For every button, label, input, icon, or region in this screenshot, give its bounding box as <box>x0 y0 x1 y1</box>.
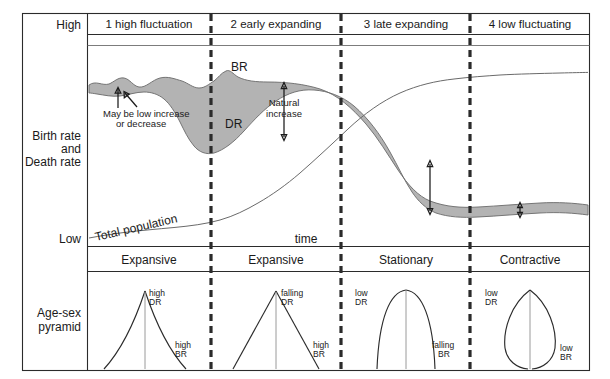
pyramid-2-base-label-line2: BR <box>313 349 325 359</box>
total-population-label: Total population <box>94 211 179 244</box>
stage-header-1: 1 high fluctuation <box>106 18 193 30</box>
natural-increase-band <box>89 71 588 218</box>
pyramid-4-right-edge <box>530 290 555 369</box>
death-rate-label: DR <box>225 117 243 131</box>
pyramid-4-top-label-line2: DR <box>485 297 497 307</box>
pyramid-type-3: Stationary <box>379 253 433 267</box>
pyramid-1-base-label-line2: BR <box>175 349 187 359</box>
birth-rate-label: BR <box>231 60 248 74</box>
axis-label-birth-rate: Birth rate <box>32 129 81 143</box>
age-sex-pyramid-1: high DR high BR <box>104 288 191 369</box>
stage1-note-line2: or decrease <box>116 118 166 129</box>
axis-label-age-sex: Age-sex <box>37 306 81 320</box>
pyramid-2-left-edge <box>233 291 276 369</box>
stage-header-4: 4 low fluctuating <box>489 18 571 30</box>
pyramid-4-left-edge <box>505 290 530 369</box>
axis-label-pyramid: pyramid <box>38 320 81 334</box>
pyramid-3-top-label-line2: DR <box>355 297 367 307</box>
age-sex-pyramid-4: low DR low BR <box>485 288 574 369</box>
stage-header-2: 2 early expanding <box>231 18 322 30</box>
pyramid-1-top-label-line2: DR <box>149 297 161 307</box>
demographic-transition-diagram: High Birth rate and Death rate Low Age-s… <box>0 0 610 379</box>
axis-label-low: Low <box>59 232 81 246</box>
pyramid-3-base-label-line2: BR <box>438 349 450 359</box>
pyramid-1-left-edge <box>104 291 145 369</box>
axis-label-and: and <box>61 142 81 156</box>
age-sex-pyramid-3: low DR falling BR <box>355 288 454 369</box>
age-sex-pyramid-2: falling DR high BR <box>233 288 329 369</box>
natural-increase-label-line1: Natural <box>269 97 300 108</box>
time-axis-label: time <box>295 232 318 246</box>
pyramid-3-left-edge <box>377 290 406 369</box>
pyramid-2-top-label-line2: DR <box>281 297 293 307</box>
axis-label-high: High <box>56 18 81 32</box>
pyramid-type-4: Contractive <box>500 253 561 267</box>
figure-root: High Birth rate and Death rate Low Age-s… <box>0 0 610 379</box>
stage-header-3: 3 late expanding <box>364 18 448 30</box>
diagram-frame <box>23 14 590 371</box>
natural-increase-label-line2: increase <box>266 108 302 119</box>
pyramid-3-right-edge <box>406 290 435 369</box>
axis-label-death-rate: Death rate <box>25 155 81 169</box>
pyramid-type-2: Expansive <box>248 253 304 267</box>
pyramid-4-base-label-line2: BR <box>560 352 572 362</box>
pyramid-type-1: Expansive <box>121 253 177 267</box>
